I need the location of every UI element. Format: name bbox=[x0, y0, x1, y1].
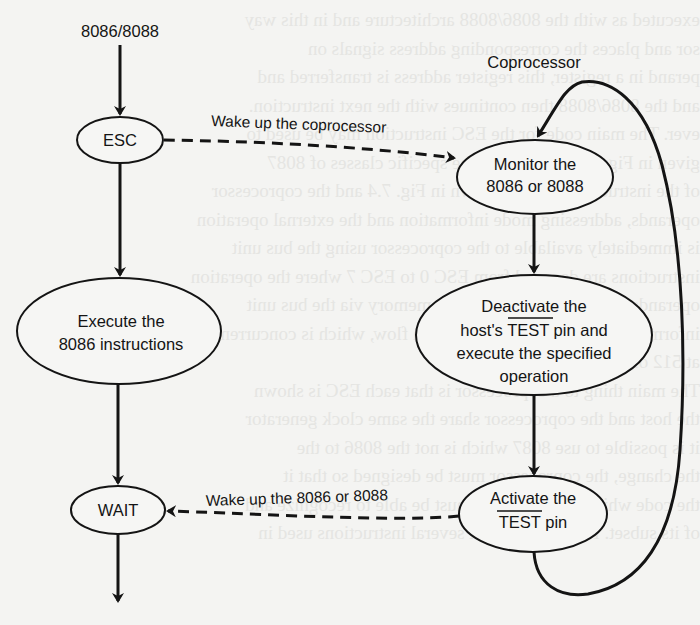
flow-diagram: 8086/8088 ESC Execute the 8086 instructi… bbox=[0, 0, 700, 625]
deactivate-label-line2: host's TEST pin and bbox=[460, 321, 608, 339]
host-processor-label: 8086/8088 bbox=[81, 22, 159, 40]
monitor-label-line1: Monitor the bbox=[494, 155, 577, 173]
execute-ellipse bbox=[17, 278, 221, 384]
deactivate-label-line4: operation bbox=[500, 367, 569, 385]
deactivate-label-line3: execute the specified bbox=[456, 344, 611, 362]
execute-label-line2: 8086 instructions bbox=[59, 335, 184, 353]
dashed-arrow-esc-to-monitor bbox=[164, 140, 454, 158]
deactivate-test-pin-text: TEST bbox=[507, 321, 549, 339]
node-monitor: Monitor the 8086 or 8088 bbox=[457, 140, 613, 214]
node-activate: Activate the TEST pin bbox=[459, 476, 607, 552]
activate-label-line1: Activate the bbox=[490, 489, 576, 507]
node-wait: WAIT bbox=[71, 486, 165, 534]
dashed-arrow-activate-to-wait bbox=[168, 511, 459, 518]
node-esc: ESC bbox=[77, 117, 163, 163]
activate-pin-text: pin bbox=[545, 513, 567, 531]
deactivate-label-line1: Deactivate the bbox=[481, 297, 586, 315]
wake-coprocessor-label: Wake up the coprocessor bbox=[211, 112, 387, 136]
deactivate-pin-and-text: pin and bbox=[554, 321, 608, 339]
monitor-label-line2: 8086 or 8088 bbox=[486, 177, 583, 195]
activate-test-text: TEST bbox=[499, 513, 541, 531]
coprocessor-label: Coprocessor bbox=[487, 53, 581, 71]
wake-host-label: Wake up the 8086 or 8088 bbox=[206, 486, 389, 509]
deactivate-host-text: host's bbox=[460, 321, 503, 339]
wait-label: WAIT bbox=[98, 501, 139, 519]
esc-label: ESC bbox=[103, 131, 137, 149]
node-execute: Execute the 8086 instructions bbox=[17, 278, 221, 384]
node-deactivate: Deactivate the host's TEST pin and execu… bbox=[416, 275, 652, 395]
activate-label-line2: TEST pin bbox=[499, 513, 568, 531]
execute-label-line1: Execute the bbox=[77, 312, 164, 330]
